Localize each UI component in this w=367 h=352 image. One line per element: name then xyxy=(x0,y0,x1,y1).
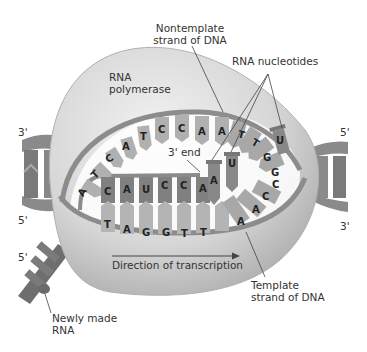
rna-nucleotides-label: RNA nucleotides xyxy=(232,55,318,67)
nontemplate-label-line1: Nontemplate xyxy=(150,22,230,34)
svg-text:A: A xyxy=(252,204,260,215)
template-label-line2: strand of DNA xyxy=(251,291,325,303)
newly-made-rna-label: Newly made RNA xyxy=(52,312,117,336)
svg-text:A: A xyxy=(210,175,218,186)
svg-text:T: T xyxy=(140,131,147,142)
svg-text:C: C xyxy=(178,123,185,134)
svg-text:C: C xyxy=(161,180,168,191)
right-bottom-end-label: 3' xyxy=(340,220,350,232)
rna-polymerase-label: RNA polymerase xyxy=(109,71,171,95)
rna-5-end-label: 5' xyxy=(18,251,28,263)
right-top-end-label: 5' xyxy=(340,126,350,138)
direction-of-transcription-label: Direction of transcription xyxy=(112,259,243,271)
svg-text:A: A xyxy=(123,224,131,235)
nontemplate-label-line2: strand of DNA xyxy=(150,34,230,46)
svg-text:C: C xyxy=(262,191,269,202)
svg-text:G: G xyxy=(162,227,170,238)
svg-text:G: G xyxy=(263,152,271,163)
svg-text:A: A xyxy=(199,183,207,194)
svg-text:A: A xyxy=(122,141,130,152)
transcription-diagram: A T C A T C C A A T T G G C A U C C A T … xyxy=(0,0,367,352)
template-label-line1: Template xyxy=(251,279,325,291)
svg-text:C: C xyxy=(180,180,187,191)
newly-made-rna-line2: RNA xyxy=(52,324,117,336)
svg-text:T: T xyxy=(181,228,188,239)
svg-text:A: A xyxy=(218,126,226,137)
svg-text:G: G xyxy=(142,227,150,238)
svg-text:G: G xyxy=(271,167,279,178)
left-bottom-end-label: 5' xyxy=(18,214,28,226)
svg-text:C: C xyxy=(104,186,111,197)
svg-text:A: A xyxy=(198,126,206,137)
svg-text:U: U xyxy=(276,135,284,146)
nontemplate-strand-label: Nontemplate strand of DNA xyxy=(150,22,230,46)
svg-text:U: U xyxy=(228,158,236,169)
svg-text:C: C xyxy=(158,124,165,135)
three-prime-end-label: 3' end xyxy=(168,146,201,158)
template-strand-label: Template strand of DNA xyxy=(251,279,325,303)
svg-text:T: T xyxy=(104,219,111,230)
svg-text:T: T xyxy=(200,227,207,238)
svg-text:A: A xyxy=(237,216,245,227)
rna-polymerase-label-line2: polymerase xyxy=(109,83,171,95)
rna-polymerase-label-line1: RNA xyxy=(109,71,171,83)
left-top-end-label: 3' xyxy=(18,126,28,138)
newly-made-rna-line1: Newly made xyxy=(52,312,117,324)
svg-text:A: A xyxy=(123,184,131,195)
svg-text:U: U xyxy=(142,184,150,195)
svg-text:C: C xyxy=(272,179,279,190)
